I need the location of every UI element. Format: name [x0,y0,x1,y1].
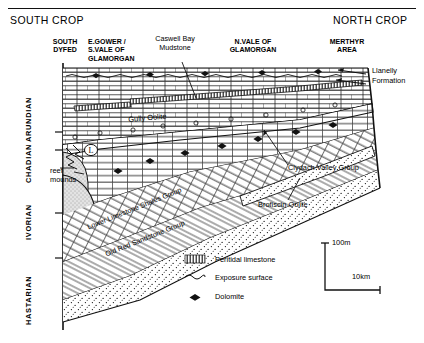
legend-dolomite-swatch [190,294,201,301]
scale-bar [321,243,380,294]
label-clydach-valley-group: Clydach Valley Group [288,163,359,172]
label-line: mounds [50,175,76,184]
scale-vertical-label: 100m [332,238,351,247]
legend-label-peritidal-limestone: Peritidal limestone [215,255,275,264]
legend-symbols [185,255,205,301]
label-line: Llanelly [372,66,405,76]
l-marker: L [85,144,98,155]
label-line: Formation [372,76,405,86]
scale-horizontal-label: 10km [352,272,370,281]
legend-label-dolomite: Dolomite [215,292,244,301]
legend-label-exposure-surface: Exposure surface [215,273,273,282]
figure-root: SOUTH CROP NORTH CROP SOUTH DYFED E.GOWE… [0,0,424,343]
label-reef-mounds: reef mounds [50,166,76,185]
stage-ticks [55,132,63,258]
l-marker-text: L [89,146,94,155]
label-line: reef [50,166,76,175]
label-brofiscin-oolite: Brofiscin Oolite [258,200,308,209]
label-llanelly-formation: Llanelly Formation [372,66,405,85]
legend-peritidal-swatch [185,255,205,263]
legend-exposure-swatch [185,275,205,279]
